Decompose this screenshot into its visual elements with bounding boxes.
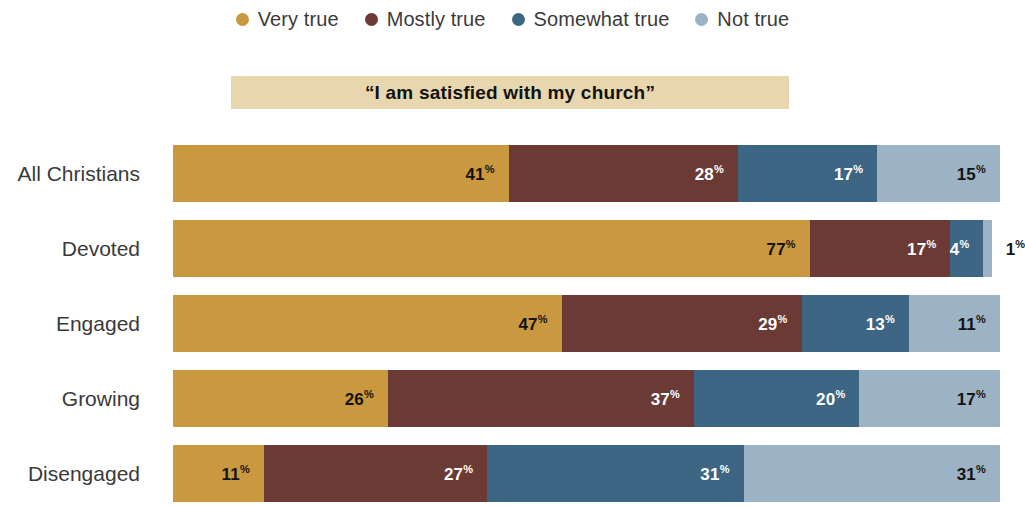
bar-segment-value: 17%: [957, 388, 1000, 410]
legend-item[interactable]: Very true: [236, 8, 339, 31]
percent-sign: %: [720, 463, 730, 475]
percent-sign: %: [714, 163, 724, 175]
bar-segment-number: 17: [907, 239, 926, 258]
bar-segment-number: 31: [700, 464, 719, 483]
bar-segment-number: 27: [444, 464, 463, 483]
legend-item-label: Mostly true: [387, 8, 486, 31]
legend-item-label: Not true: [717, 8, 789, 31]
percent-sign: %: [778, 313, 788, 325]
bar-segment-number: 77: [766, 239, 785, 258]
bar-segment[interactable]: 31%: [744, 445, 1000, 502]
percent-sign: %: [463, 463, 473, 475]
bar-segment-number: 11: [222, 464, 240, 483]
chart-row-label: Engaged: [0, 295, 140, 352]
bar-segment-number: 28: [695, 164, 714, 183]
legend-item[interactable]: Not true: [695, 8, 789, 31]
bar-segment[interactable]: 41%: [173, 145, 509, 202]
bar-segment-number: 11: [958, 314, 976, 333]
bar-segment-value: 31%: [700, 463, 743, 485]
legend-dot-icon: [365, 13, 378, 26]
bar-segment[interactable]: 37%: [388, 370, 694, 427]
bar-segment[interactable]: 28%: [509, 145, 738, 202]
chart-row: Growing26%37%20%17%: [0, 370, 1025, 445]
percent-sign: %: [538, 313, 548, 325]
bar-segment-value: 31%: [957, 463, 1000, 485]
bar-segment-value: 4%: [950, 238, 984, 260]
bar-segment[interactable]: 11%: [173, 445, 264, 502]
percent-sign: %: [670, 388, 680, 400]
bar-segment-value: 47%: [518, 313, 561, 335]
percent-sign: %: [885, 313, 895, 325]
bar-segment-number: 37: [651, 389, 670, 408]
chart-row-label: Growing: [0, 370, 140, 427]
bar-segment[interactable]: 27%: [264, 445, 487, 502]
legend-item-label: Somewhat true: [534, 8, 670, 31]
bar-segment-value: 77%: [766, 238, 809, 260]
bar-segment-value: 15%: [957, 163, 1000, 185]
bar-segment[interactable]: 31%: [487, 445, 743, 502]
chart-row: Devoted77%17%4%1%: [0, 220, 1025, 295]
percent-sign: %: [786, 238, 796, 250]
bar-segment-number: 1: [1006, 239, 1016, 258]
stacked-bar: 41%28%17%15%: [173, 145, 1000, 202]
bar-segment-value: 17%: [907, 238, 950, 260]
bar-segment-number: 26: [345, 389, 364, 408]
bar-segment-value: 1%: [992, 238, 1025, 260]
bar-segment[interactable]: 17%: [810, 220, 951, 277]
legend-item[interactable]: Somewhat true: [512, 8, 670, 31]
bar-segment[interactable]: 20%: [694, 370, 859, 427]
bar-segment[interactable]: 26%: [173, 370, 388, 427]
bar-segment-value: 28%: [695, 163, 738, 185]
bar-segment-number: 17: [834, 164, 853, 183]
chart-title: “I am satisfied with my church”: [365, 82, 655, 104]
bar-segment[interactable]: 13%: [802, 295, 910, 352]
legend-item-label: Very true: [258, 8, 339, 31]
percent-sign: %: [976, 163, 986, 175]
percent-sign: %: [976, 388, 986, 400]
percent-sign: %: [976, 463, 986, 475]
percent-sign: %: [240, 463, 250, 475]
bar-segment-number: 41: [465, 164, 484, 183]
bar-segment[interactable]: 77%: [173, 220, 810, 277]
bar-segment-number: 17: [957, 389, 976, 408]
chart-row-label: All Christians: [0, 145, 140, 202]
percent-sign: %: [485, 163, 495, 175]
bar-segment[interactable]: 11%: [909, 295, 1000, 352]
chart-row-label: Devoted: [0, 220, 140, 277]
bar-segment-value: 41%: [465, 163, 508, 185]
bar-segment[interactable]: 4%: [950, 220, 983, 277]
bar-segment[interactable]: 29%: [562, 295, 802, 352]
legend-item[interactable]: Mostly true: [365, 8, 486, 31]
bar-segment-number: 15: [957, 164, 976, 183]
bar-segment[interactable]: 17%: [738, 145, 877, 202]
bar-segment-number: 29: [758, 314, 777, 333]
bar-segment-value: 20%: [816, 388, 859, 410]
stacked-bar: 11%27%31%31%: [173, 445, 1000, 502]
bar-segment[interactable]: 15%: [877, 145, 1000, 202]
chart-title-banner: “I am satisfied with my church”: [231, 76, 789, 109]
bar-segment-number: 47: [518, 314, 537, 333]
legend-dot-icon: [236, 13, 249, 26]
bar-segment-value: 26%: [345, 388, 388, 410]
bar-segment-value: 27%: [444, 463, 487, 485]
percent-sign: %: [959, 238, 969, 250]
bar-segment-number: 31: [957, 464, 976, 483]
percent-sign: %: [835, 388, 845, 400]
bar-segment-value: 11%: [958, 313, 1000, 335]
bar-segment-value: 17%: [834, 163, 877, 185]
bar-segment-number: 4: [950, 239, 960, 258]
chart-row: Engaged47%29%13%11%: [0, 295, 1025, 370]
stacked-bar: 47%29%13%11%: [173, 295, 1000, 352]
chart-legend: Very trueMostly trueSomewhat trueNot tru…: [0, 0, 1025, 38]
percent-sign: %: [976, 313, 986, 325]
percent-sign: %: [926, 238, 936, 250]
stacked-bar: 26%37%20%17%: [173, 370, 1000, 427]
bar-segment[interactable]: 17%: [859, 370, 1000, 427]
bar-segment[interactable]: 1%: [983, 220, 991, 277]
stacked-bar-chart: All Christians41%28%17%15%Devoted77%17%4…: [0, 145, 1025, 506]
bar-segment[interactable]: 47%: [173, 295, 562, 352]
percent-sign: %: [1015, 238, 1025, 250]
chart-row: Disengaged11%27%31%31%: [0, 445, 1025, 506]
chart-row-label: Disengaged: [0, 445, 140, 502]
bar-segment-value: 13%: [866, 313, 909, 335]
